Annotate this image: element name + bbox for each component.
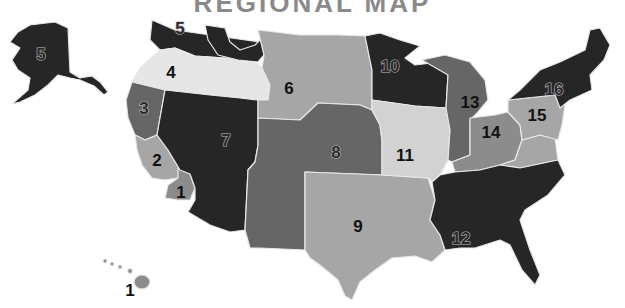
- region-5-label: 5: [175, 19, 184, 38]
- region-12-label: 12: [452, 229, 471, 248]
- region-11-label: 11: [396, 146, 414, 165]
- region-6-label: 6: [284, 79, 293, 98]
- region-9[interactable]: [305, 172, 445, 300]
- region-10-label: 10: [381, 57, 400, 76]
- region-10[interactable]: [365, 33, 448, 108]
- region-9-label: 9: [353, 217, 362, 236]
- region-13-label: 13: [461, 93, 480, 112]
- region-12[interactable]: [430, 160, 565, 285]
- us-regional-map: 5 5 4 3 2 1 1 6 7 8 9 10 11 12 13 14 15 …: [0, 0, 625, 308]
- region-4-label: 4: [166, 63, 176, 82]
- region-14-label: 14: [482, 123, 501, 142]
- region-7-label: 7: [221, 131, 230, 150]
- region-5-alaska[interactable]: [10, 22, 108, 104]
- region-1-label-hawaii: 1: [125, 281, 134, 300]
- region-16-label: 16: [545, 80, 564, 99]
- region-1-label: 1: [176, 183, 185, 202]
- region-2-label: 2: [152, 151, 161, 170]
- region-3-label: 3: [139, 99, 148, 118]
- region-8-label: 8: [331, 143, 340, 162]
- region-15-label: 15: [528, 106, 547, 125]
- region-11[interactable]: [372, 100, 450, 182]
- region-5-label-alaska: 5: [36, 45, 45, 64]
